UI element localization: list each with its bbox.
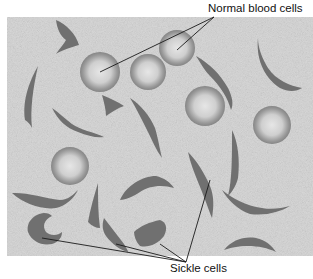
normal-cell	[159, 30, 195, 66]
blood-cells-illustration	[0, 0, 313, 279]
normal-cell	[185, 86, 225, 126]
sickle-cells-label: Sickle cells	[170, 263, 227, 275]
normal-cell	[51, 147, 89, 185]
normal-cell	[130, 54, 166, 90]
normal-blood-cells-label: Normal blood cells	[208, 3, 303, 15]
normal-cell	[253, 106, 291, 144]
